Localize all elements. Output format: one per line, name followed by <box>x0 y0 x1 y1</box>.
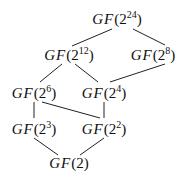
lattice-edge <box>42 102 100 118</box>
lattice-edge <box>133 29 165 45</box>
lattice-edge <box>34 138 58 155</box>
field-node-n24: GF(224) <box>92 9 142 28</box>
field-node-n12: GF(212) <box>44 45 94 64</box>
field-node-n8: GF(28) <box>131 45 176 64</box>
lattice-edge <box>72 29 112 46</box>
lattice-edge <box>40 64 62 82</box>
lattice-edge <box>75 64 98 82</box>
lattice-edge <box>110 64 165 82</box>
field-node-n4: GF(24) <box>82 83 127 102</box>
lattice-edge <box>80 138 104 155</box>
field-node-n2: GF(22) <box>82 119 127 138</box>
field-node-n6: GF(26) <box>12 83 57 102</box>
field-node-n3: GF(23) <box>12 119 57 138</box>
subfield-lattice-diagram: GF(224)GF(212)GF(28)GF(26)GF(24)GF(23)GF… <box>0 0 193 178</box>
field-node-n1: GF(2) <box>49 155 89 172</box>
